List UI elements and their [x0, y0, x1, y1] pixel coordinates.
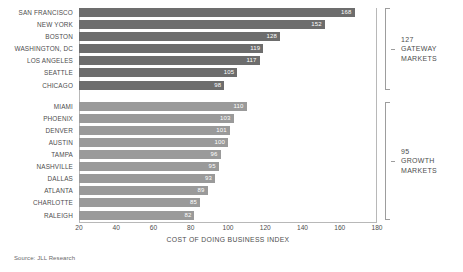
bar-value-label: 128	[267, 32, 278, 41]
bar-value-label: 98	[214, 81, 221, 90]
x-axis-tick-label: 80	[187, 224, 194, 231]
bar: 105	[79, 68, 237, 77]
category-label: LOS ANGELES	[0, 56, 76, 65]
bar: 98	[79, 81, 224, 90]
x-axis-tick-label: 120	[260, 224, 271, 231]
bar: 85	[79, 198, 200, 207]
bar-row: 168	[79, 8, 377, 17]
x-axis-ticks: 20406080100120140160180	[79, 224, 377, 236]
bar-row: 117	[79, 56, 377, 65]
bar-value-label: 101	[216, 126, 227, 135]
category-label: ATLANTA	[0, 186, 76, 195]
bar-row: 85	[79, 198, 377, 207]
bar-value-label: 152	[311, 20, 322, 29]
bar: 96	[79, 150, 221, 159]
bar: 101	[79, 126, 230, 135]
bar-row: 110	[79, 102, 377, 111]
group-separator	[0, 93, 76, 102]
bar-row: 101	[79, 126, 377, 135]
bar-row: 98	[79, 81, 377, 90]
bar-row: 119	[79, 44, 377, 53]
category-label: RALEIGH	[0, 211, 76, 220]
category-label: CHICAGO	[0, 81, 76, 90]
bar-value-label: 168	[341, 8, 352, 17]
group-separator	[79, 93, 377, 102]
category-label: NEW YORK	[0, 20, 76, 29]
growth-bracket	[385, 102, 390, 220]
bar: 89	[79, 186, 208, 195]
category-label: TAMPA	[0, 150, 76, 159]
bar-row: 100	[79, 138, 377, 147]
bar-row: 128	[79, 32, 377, 41]
bar-row: 96	[79, 150, 377, 159]
x-axis-title: COST OF DOING BUSINESS INDEX	[79, 236, 377, 243]
bar: 128	[79, 32, 280, 41]
bar-value-label: 110	[233, 102, 243, 111]
bar-row: 152	[79, 20, 377, 29]
bar-row: 82	[79, 211, 377, 220]
gateway-label-line1: GATEWAY	[401, 44, 437, 54]
gateway-label-line2: MARKETS	[401, 54, 437, 64]
gateway-average-value: 127	[401, 35, 437, 45]
bar-row: 89	[79, 186, 377, 195]
category-label: PHOENIX	[0, 114, 76, 123]
bar-value-label: 95	[209, 162, 216, 171]
x-axis-tick-label: 100	[222, 224, 233, 231]
x-axis-tick-label: 60	[150, 224, 157, 231]
bar-series: 1681521281191171059811010310110096959389…	[79, 8, 377, 223]
gateway-bracket	[385, 8, 390, 90]
bar: 117	[79, 56, 260, 65]
bar-row: 105	[79, 68, 377, 77]
category-label: DALLAS	[0, 174, 76, 183]
source-note: Source: JLL Research	[14, 255, 75, 261]
gateway-bracket-tick	[391, 49, 395, 50]
bar-value-label: 93	[205, 174, 212, 183]
growth-label-line2: MARKETS	[401, 166, 437, 176]
bar-value-label: 96	[210, 150, 217, 159]
bar-value-label: 119	[250, 44, 260, 53]
growth-annotation-text: 95 GROWTH MARKETS	[401, 147, 437, 176]
x-axis-tick-label: 40	[113, 224, 120, 231]
category-label: SEATTLE	[0, 68, 76, 77]
category-label: WASHINGTON, DC	[0, 44, 76, 53]
bar: 100	[79, 138, 228, 147]
bar-row: 93	[79, 174, 377, 183]
x-axis-tick-label: 20	[75, 224, 82, 231]
category-label: BOSTON	[0, 32, 76, 41]
growth-average-value: 95	[401, 147, 437, 157]
bar-value-label: 89	[197, 186, 204, 195]
bar: 82	[79, 211, 194, 220]
x-axis-tick-label: 180	[371, 224, 382, 231]
cost-of-doing-business-chart: SAN FRANCISCO NEW YORK BOSTON WASHINGTON…	[0, 0, 463, 272]
bar-value-label: 105	[224, 68, 235, 77]
plot-area: 1681521281191171059811010310110096959389…	[79, 8, 377, 223]
growth-bracket-tick	[391, 161, 395, 162]
bar: 103	[79, 114, 234, 123]
x-axis-tick-label: 160	[334, 224, 345, 231]
bar-value-label: 103	[220, 114, 231, 123]
bar: 168	[79, 8, 355, 17]
bar-value-label: 100	[214, 138, 225, 147]
bar: 110	[79, 102, 247, 111]
bar-row: 95	[79, 162, 377, 171]
category-label: SAN FRANCISCO	[0, 8, 76, 17]
x-axis-tick-label: 140	[297, 224, 308, 231]
gateway-annotation-text: 127 GATEWAY MARKETS	[401, 35, 437, 64]
bar-value-label: 117	[246, 56, 256, 65]
bar-value-label: 82	[184, 211, 191, 220]
bar: 93	[79, 174, 215, 183]
bar-value-label: 85	[190, 198, 197, 207]
category-label: AUSTIN	[0, 138, 76, 147]
bar: 119	[79, 44, 263, 53]
category-label: DENVER	[0, 126, 76, 135]
bar: 152	[79, 20, 325, 29]
growth-label-line1: GROWTH	[401, 156, 437, 166]
bar-row: 103	[79, 114, 377, 123]
bar: 95	[79, 162, 219, 171]
category-label: NASHVILLE	[0, 162, 76, 171]
category-axis-labels: SAN FRANCISCO NEW YORK BOSTON WASHINGTON…	[0, 8, 76, 223]
category-label: CHARLOTTE	[0, 198, 76, 207]
category-label: MIAMI	[0, 102, 76, 111]
